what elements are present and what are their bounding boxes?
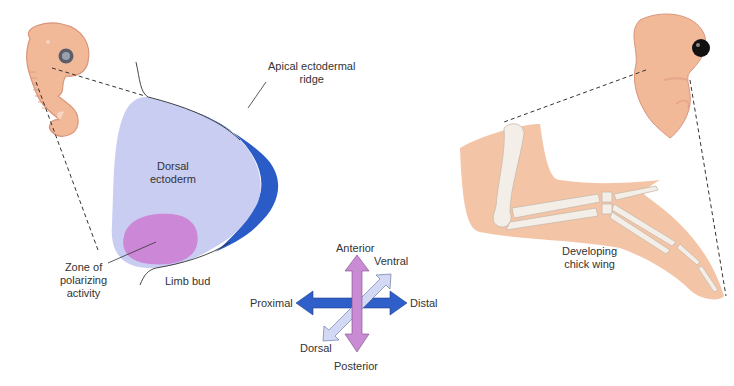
early-embryo-icon xyxy=(27,23,89,136)
chick-wing-illustration xyxy=(460,124,724,300)
zpa-line3: activity xyxy=(60,287,107,300)
distal-label: Distal xyxy=(410,297,438,310)
zpa-line2: polarizing xyxy=(60,274,107,287)
zpa-region xyxy=(123,214,198,265)
posterior-label: Posterior xyxy=(334,360,378,373)
dorsal-ectoderm-line2: ectoderm xyxy=(150,173,196,186)
wing-line1: Developing xyxy=(562,245,617,258)
chick-embryo-icon xyxy=(634,14,710,138)
apical-leader-line xyxy=(248,82,266,108)
proximal-label: Proximal xyxy=(250,297,293,310)
anterior-label: Anterior xyxy=(336,242,375,255)
dorsal-ectoderm-line1: Dorsal xyxy=(150,160,196,173)
axis-arrows-icon xyxy=(296,255,407,352)
wing-line2: chick wing xyxy=(562,258,617,271)
apical-ridge-label: Apical ectodermal ridge xyxy=(268,60,355,86)
apical-line1: Apical ectodermal xyxy=(268,60,355,73)
dorsal-ectoderm-label: Dorsal ectoderm xyxy=(150,160,196,186)
limb-development-diagram: Dorsal ectoderm Apical ectodermal ridge … xyxy=(0,0,734,386)
dorsal-label: Dorsal xyxy=(300,342,332,355)
limb-bud-label: Limb bud xyxy=(165,275,210,288)
apical-line2: ridge xyxy=(268,73,355,86)
developing-chick-wing-label: Developing chick wing xyxy=(562,245,617,271)
zpa-line1: Zone of xyxy=(60,261,107,274)
ventral-label: Ventral xyxy=(374,255,408,268)
zpa-label: Zone of polarizing activity xyxy=(60,261,107,300)
